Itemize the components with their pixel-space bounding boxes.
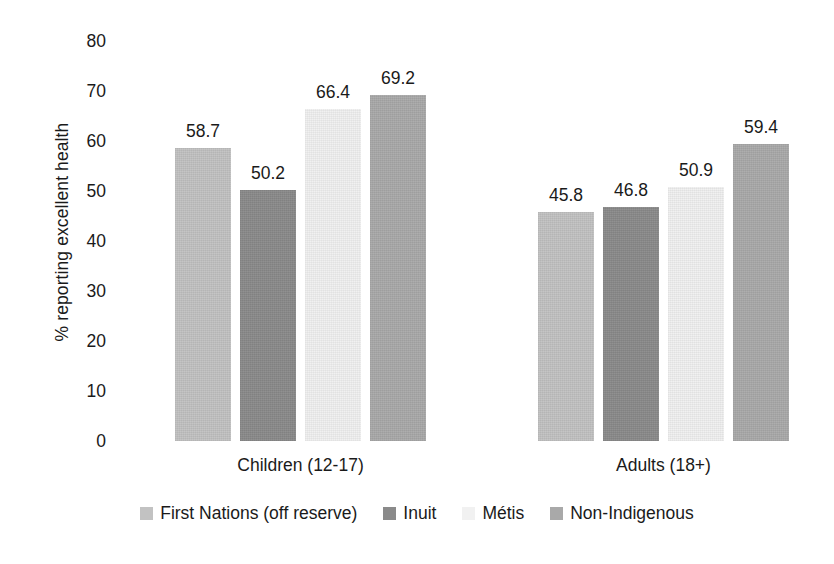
y-axis-ticks: 80706050403020100 — [60, 0, 106, 564]
legend-swatch-icon — [462, 507, 475, 520]
x-axis-category-label: Adults (18+) — [514, 455, 814, 476]
bar[interactable] — [305, 109, 361, 441]
bar[interactable] — [370, 95, 426, 441]
y-axis-tick-label: 80 — [60, 31, 106, 52]
legend-label: Métis — [482, 505, 524, 523]
bar-value-label: 46.8 — [591, 180, 671, 201]
y-axis-tick-label: 20 — [60, 331, 106, 352]
legend-item[interactable]: Inuit — [383, 505, 436, 523]
bar-group: 45.846.850.959.4 — [538, 30, 789, 441]
legend-label: Non-Indigenous — [570, 505, 694, 523]
bar[interactable] — [733, 144, 789, 441]
bar[interactable] — [538, 212, 594, 441]
bar[interactable] — [603, 207, 659, 441]
bar-value-label: 59.4 — [721, 117, 801, 138]
legend-item[interactable]: Métis — [462, 505, 524, 523]
bar-value-label: 58.7 — [163, 121, 243, 142]
y-axis-tick-label: 50 — [60, 181, 106, 202]
legend-label: First Nations (off reserve) — [160, 505, 357, 523]
legend-item[interactable]: Non-Indigenous — [550, 505, 694, 523]
y-axis-tick-label: 60 — [60, 131, 106, 152]
bar[interactable] — [240, 190, 296, 441]
y-axis-tick-label: 30 — [60, 281, 106, 302]
y-axis-tick-label: 10 — [60, 381, 106, 402]
bar-value-label: 50.9 — [656, 160, 736, 181]
bar-chart: % reporting excellent health 80706050403… — [0, 0, 834, 564]
y-axis-tick-label: 0 — [60, 431, 106, 452]
bar[interactable] — [175, 148, 231, 442]
legend-swatch-icon — [140, 507, 153, 520]
bar-group: 58.750.266.469.2 — [175, 30, 426, 441]
bar-value-label: 50.2 — [228, 163, 308, 184]
bar-value-label: 69.2 — [358, 68, 438, 89]
y-axis-tick-label: 40 — [60, 231, 106, 252]
x-axis-category-label: Children (12-17) — [151, 455, 451, 476]
y-axis-tick-label: 70 — [60, 81, 106, 102]
legend-label: Inuit — [403, 505, 436, 523]
plot-area: 58.750.266.469.245.846.850.959.4 — [120, 30, 820, 441]
legend-swatch-icon — [383, 507, 396, 520]
bar[interactable] — [668, 187, 724, 442]
chart-legend: First Nations (off reserve)InuitMétisNon… — [0, 505, 834, 523]
legend-item[interactable]: First Nations (off reserve) — [140, 505, 357, 523]
legend-swatch-icon — [550, 507, 563, 520]
